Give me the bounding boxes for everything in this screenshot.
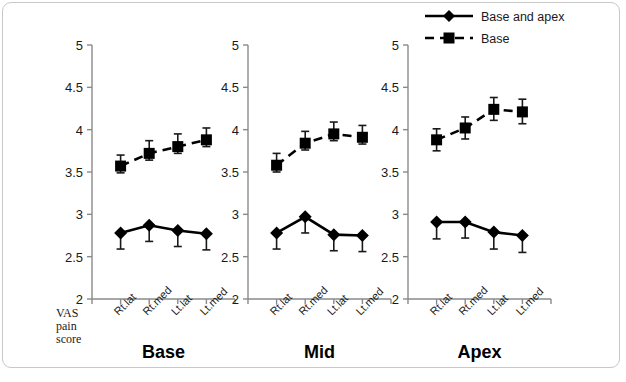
x-category-label: Rt.lat [428, 291, 455, 318]
x-category-label: Rt.lat [112, 291, 139, 318]
data-point-square [517, 106, 528, 117]
data-point-square [201, 134, 212, 145]
y-tick-label: 3.5 [65, 165, 83, 180]
data-point-diamond [299, 210, 312, 223]
legend-label: Base and apex [481, 10, 565, 24]
y-tick-label: 2 [76, 292, 83, 307]
panel-mid: 22.533.544.55Rt.latRt.medLt.latLt.med [221, 38, 391, 317]
x-category-label: Lt.med [513, 285, 545, 317]
y-tick-label: 2 [232, 292, 239, 307]
y-tick-label: 3 [232, 207, 239, 222]
data-point-square [172, 141, 183, 152]
y-tick-label: 3 [392, 207, 399, 222]
data-point-diamond [459, 215, 472, 228]
data-point-square [460, 122, 471, 133]
data-point-diamond [487, 226, 500, 239]
y-tick-label: 3.5 [221, 165, 239, 180]
x-category-label: Lt.lat [325, 292, 350, 317]
data-point-square [144, 148, 155, 159]
data-point-diamond [114, 226, 127, 239]
y-axis-title-line: pain [56, 319, 77, 333]
data-point-diamond [200, 227, 213, 240]
y-tick-label: 4 [232, 123, 239, 138]
y-tick-label: 4.5 [221, 80, 239, 95]
y-tick-label: 4.5 [381, 80, 399, 95]
panel-apex: 22.533.544.55Rt.latRt.medLt.latLt.med [381, 38, 551, 317]
data-point-diamond [516, 229, 529, 242]
data-point-square [300, 138, 311, 149]
series-line-square [277, 134, 363, 165]
data-point-square [488, 104, 499, 115]
series-line-diamond [437, 222, 523, 236]
panel-title-base: Base [142, 342, 185, 362]
series-line-diamond [277, 217, 363, 236]
series-line-square [437, 109, 523, 139]
series-line-square [121, 140, 207, 166]
y-tick-label: 4.5 [65, 80, 83, 95]
x-category-label: Lt.lat [485, 292, 510, 317]
data-point-square [115, 161, 126, 172]
y-tick-label: 4 [392, 123, 399, 138]
legend-marker-square [444, 33, 455, 44]
data-point-square [328, 128, 339, 139]
panel-base: 22.533.544.55Rt.latRt.medLt.latLt.med [65, 38, 235, 317]
y-axis-title-line: score [56, 332, 81, 346]
data-point-square [357, 132, 368, 143]
y-tick-label: 3.5 [381, 165, 399, 180]
x-category-label: Rt.med [140, 284, 174, 318]
data-point-diamond [430, 215, 443, 228]
data-point-diamond [327, 228, 340, 241]
y-tick-label: 3 [76, 207, 83, 222]
x-category-label: Rt.med [456, 284, 490, 318]
data-point-diamond [171, 224, 184, 237]
x-category-label: Rt.lat [268, 291, 295, 318]
figure-plot-area: 22.533.544.55Rt.latRt.medLt.latLt.medBas… [0, 0, 626, 382]
panel-title-apex: Apex [457, 342, 501, 362]
y-tick-label: 5 [392, 38, 399, 53]
data-point-diamond [270, 226, 283, 239]
panel-title-mid: Mid [304, 342, 335, 362]
figure-caption-sliver [6, 371, 616, 380]
data-point-square [431, 134, 442, 145]
series-line-diamond [121, 225, 207, 233]
data-point-square [271, 160, 282, 171]
data-point-diamond [356, 229, 369, 242]
y-tick-label: 2 [392, 292, 399, 307]
y-axis-title-line: VAS [56, 306, 78, 320]
legend: Base and apexBase [425, 10, 565, 46]
legend-marker-diamond [443, 10, 455, 22]
y-tick-label: 4 [76, 123, 83, 138]
y-tick-label: 2.5 [381, 250, 399, 265]
multi-panel-line-chart: 22.533.544.55Rt.latRt.medLt.latLt.medBas… [0, 0, 626, 382]
data-point-diamond [143, 219, 156, 232]
x-category-label: Lt.med [197, 285, 229, 317]
legend-label: Base [481, 32, 510, 46]
x-category-label: Rt.med [296, 284, 330, 318]
x-category-label: Lt.med [353, 285, 385, 317]
y-tick-label: 2.5 [221, 250, 239, 265]
y-tick-label: 5 [232, 38, 239, 53]
x-category-label: Lt.lat [169, 292, 194, 317]
y-tick-label: 5 [76, 38, 83, 53]
y-tick-label: 2.5 [65, 250, 83, 265]
